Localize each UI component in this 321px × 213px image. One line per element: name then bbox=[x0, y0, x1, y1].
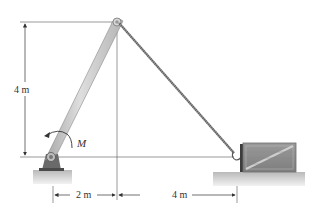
crate-hook bbox=[232, 147, 241, 160]
horizontal-dimensions: 2 m 4 m bbox=[53, 186, 237, 203]
crate bbox=[232, 143, 296, 172]
diagram-canvas: 4 m M bbox=[0, 0, 321, 213]
dim-2m-label: 2 m bbox=[76, 189, 92, 200]
moment-label: M bbox=[76, 137, 87, 149]
ground-left bbox=[33, 170, 72, 184]
height-dim-label: 4 m bbox=[14, 84, 30, 95]
ground-right bbox=[213, 172, 305, 186]
height-dimension: 4 m bbox=[14, 24, 30, 155]
dim-4m-label: 4 m bbox=[172, 189, 188, 200]
